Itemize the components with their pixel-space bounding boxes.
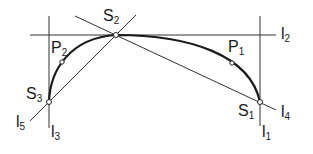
label-s1: S1 [238,103,254,121]
label-p2: P2 [51,40,67,58]
label-l5: l5 [16,114,25,132]
point-p1 [230,61,234,65]
line-l4 [75,16,276,110]
label-s3: S3 [26,86,42,104]
point-s3 [47,100,52,105]
label-s2: S2 [103,8,119,26]
label-l2: l2 [281,26,290,44]
conic-construction-diagram: S2 P2 P1 S3 S1 l2 l4 l1 l5 l3 [0,0,313,154]
point-s2 [114,33,119,38]
point-s1 [258,100,263,105]
label-p1: P1 [228,39,244,57]
line-l5 [30,15,136,121]
label-l4: l4 [281,104,290,122]
label-l1: l1 [262,124,271,142]
label-l3: l3 [51,124,60,142]
point-p2 [60,60,64,64]
